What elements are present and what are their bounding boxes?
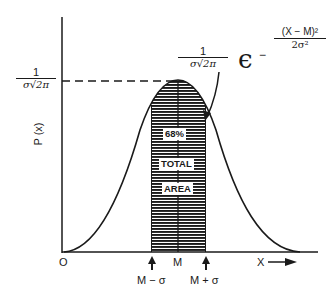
exponent-numerator: (X − M)² — [274, 26, 326, 39]
peak-numerator: 1 — [16, 66, 56, 79]
minus-sigma-arrow-icon — [148, 256, 156, 270]
coefficient-denominator: σ√2π — [178, 58, 228, 70]
y-axis-label: P (x) — [32, 122, 44, 145]
minus-sigma-label: M − σ — [137, 274, 166, 286]
formula-exponent: (X − M)² 2σ² — [274, 26, 326, 51]
peak-value-label: 1 σ√2π — [16, 66, 56, 91]
coefficient-numerator: 1 — [178, 45, 228, 58]
x-axis-label: X — [257, 256, 264, 268]
plus-sigma-label: M + σ — [190, 274, 219, 286]
formula-base: ϵ — [238, 46, 253, 72]
percent-label: 68% — [163, 128, 186, 140]
x-direction-arrow-icon — [268, 258, 297, 266]
exponent-denominator: 2σ² — [274, 39, 326, 51]
formula-coefficient: 1 σ√2π — [178, 45, 228, 70]
origin-label: O — [59, 256, 68, 268]
plus-sigma-arrow-icon — [202, 256, 210, 270]
mean-label: M — [173, 256, 182, 268]
area-label: AREA — [162, 183, 193, 195]
total-label: TOTAL — [159, 158, 194, 170]
formula-exponent-sign: − — [259, 48, 266, 62]
peak-denominator: σ√2π — [16, 79, 56, 91]
